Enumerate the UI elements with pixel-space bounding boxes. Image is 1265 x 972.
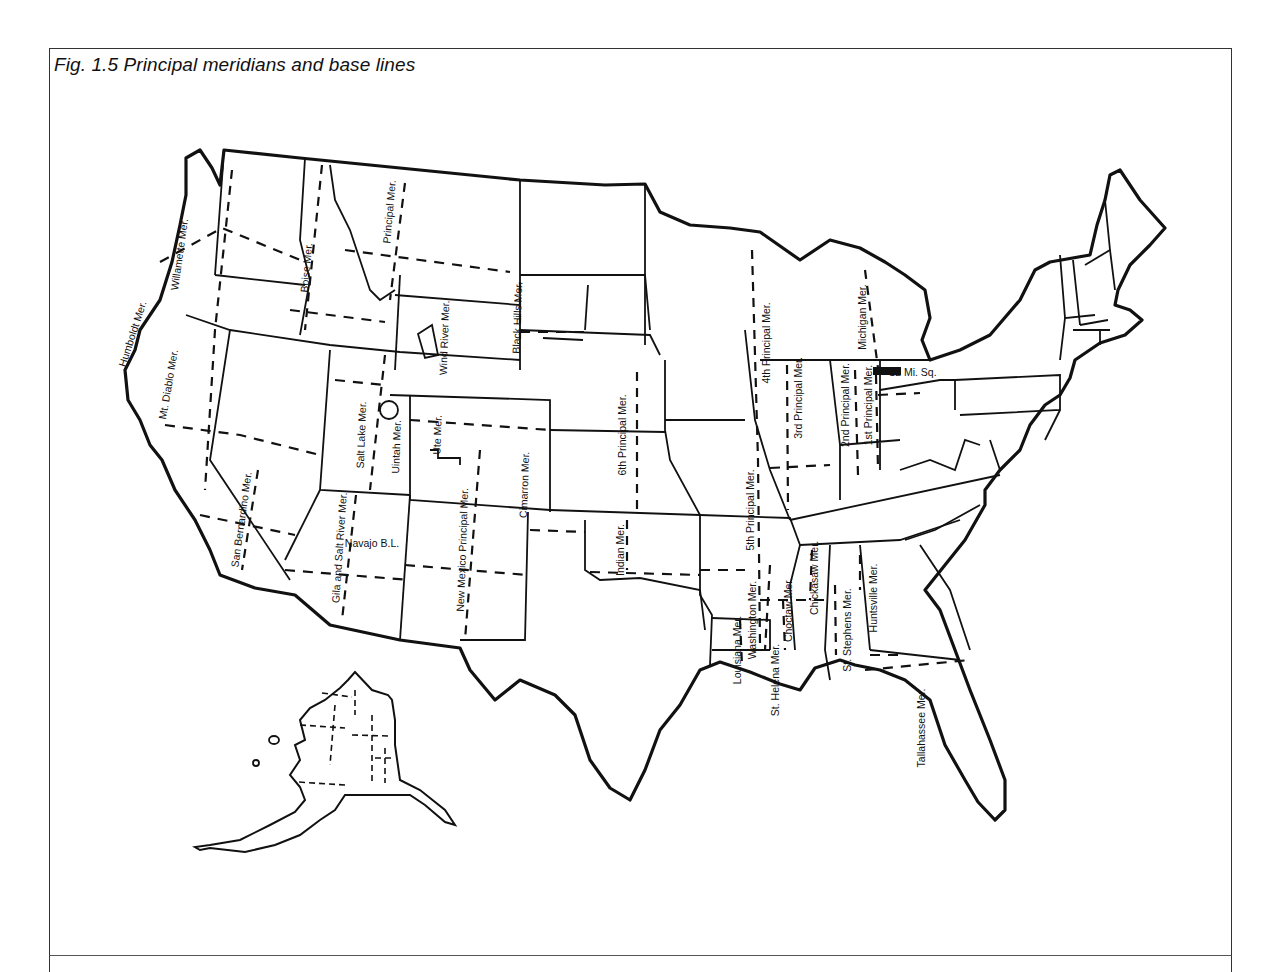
alaska-island [269,736,279,744]
map-label: Navajo B.L. [345,537,399,549]
map-label: 2nd Principal Mer. [839,363,851,447]
map-label: Cimarron Mer. [517,451,531,518]
map-label: 1st Principal Mer. [862,365,874,446]
alaska-outline [195,672,455,852]
map-label: Ute Mer. [430,415,443,455]
map-label: Tallahassee Mer. [915,689,927,768]
uintah-reservation [380,401,398,419]
map-label: St. Helena Mer. [769,644,781,716]
map-label: Michigan Mer. [856,284,868,349]
map-label: St. Stephens Mer. [841,588,853,671]
map-label: 4th Principal Mer. [760,302,772,383]
map-label: Louisiana Mer. [731,616,743,684]
us-meridian-map: Humboldt Mer.Willamette Mer.Mt. Diablo M… [0,0,1265,972]
map-label: 6th Principal Mer. [616,394,628,475]
alaska-island [253,760,259,766]
map-label: Boise Mer. [298,242,314,292]
map-label: Mt. Diablo Mer. [156,348,180,420]
map-label: Uintah Mer. [389,420,403,474]
map-label: Principal Mer. [380,179,397,243]
map-label: Willamette Mer. [168,218,190,291]
map-label: Salt Lake Mer. [354,401,368,469]
map-label: 12 Mi. Sq. [889,366,936,378]
state-borders [186,158,1115,680]
map-label: Chickasaw Mer. [808,541,820,615]
map-label: Wind River Mer. [437,300,452,375]
map-label: Choctaw Mer. [782,578,794,642]
map-label: Huntsville Mer. [867,564,879,633]
map-label: 3rd Principal Mer. [792,357,804,439]
map-label: Black Hills Mer. [510,282,524,354]
map-label: Washington Mer. [746,581,758,659]
alaska-survey-lines [298,690,395,785]
map-label: 5th Principal Mer. [744,469,756,550]
meridian-labels: Humboldt Mer.Willamette Mer.Mt. Diablo M… [116,179,937,767]
map-label: Indian Mer. [614,524,626,576]
map-label: New Mexico Principal Mer. [454,488,470,612]
